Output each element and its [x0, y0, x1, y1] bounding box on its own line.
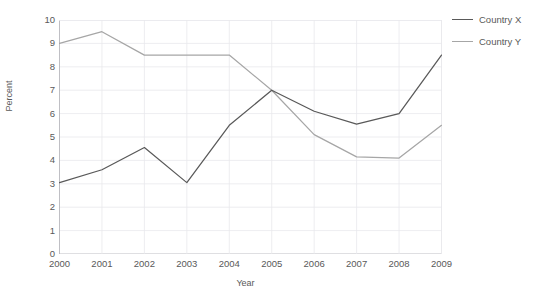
x-axis-tick-label: 2009	[422, 258, 462, 269]
x-axis-tick-label: 2006	[294, 258, 334, 269]
plot-area	[59, 20, 442, 254]
y-axis-tick-label: 3	[33, 179, 55, 189]
series-line-country-x	[60, 55, 442, 183]
legend-label: Country Y	[479, 36, 521, 47]
x-axis-tick-label: 2002	[124, 258, 164, 269]
legend-item-country-y[interactable]: Country Y	[452, 33, 537, 49]
y-axis-tick-label: 2	[33, 202, 55, 212]
x-axis-tick-labels: 2000200120022003200420052006200720082009	[59, 258, 442, 272]
y-axis-title: Percent	[4, 66, 14, 126]
chart-title	[0, 0, 430, 2]
x-axis-tick-label: 2000	[40, 258, 80, 269]
series-line-country-y	[60, 32, 442, 158]
x-axis-tick-label: 2008	[379, 258, 419, 269]
y-axis-tick-labels: 012345678910	[29, 20, 55, 254]
x-axis-tick-label: 2007	[337, 258, 377, 269]
chart-legend: Country XCountry Y	[452, 11, 537, 55]
y-axis-tick-label: 10	[33, 15, 55, 25]
plot-svg	[59, 20, 442, 254]
y-axis-tick-label: 7	[33, 85, 55, 95]
line-chart: Percent 012345678910 2000200120022003200…	[0, 0, 539, 299]
x-axis-tick-label: 2001	[82, 258, 122, 269]
x-axis-tick-label: 2004	[209, 258, 249, 269]
legend-line-swatch	[452, 41, 473, 42]
y-axis-tick-label: 1	[33, 226, 55, 236]
y-axis-tick-label: 9	[33, 38, 55, 48]
y-axis-tick-label: 4	[33, 155, 55, 165]
legend-label: Country X	[479, 14, 521, 25]
legend-line-swatch	[452, 19, 473, 20]
y-axis-tick-label: 6	[33, 109, 55, 119]
x-axis-title: Year	[48, 278, 443, 288]
y-axis-tick-label: 5	[33, 132, 55, 142]
x-axis-tick-label: 2003	[167, 258, 207, 269]
y-axis-tick-label: 8	[33, 62, 55, 72]
x-axis-tick-label: 2005	[252, 258, 292, 269]
legend-item-country-x[interactable]: Country X	[452, 11, 537, 27]
